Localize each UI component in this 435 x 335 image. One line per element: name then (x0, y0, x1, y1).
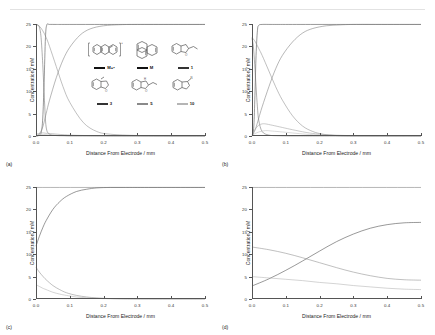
y-tick (33, 299, 36, 300)
y-tick-label: 0 (29, 134, 32, 139)
y-tick (249, 209, 252, 210)
x-tick (286, 133, 287, 136)
svg-text:H: H (144, 77, 146, 81)
x-tick (252, 296, 253, 299)
x-tick-label: 0.3 (134, 140, 140, 145)
x-tick-label: 0.0 (33, 303, 39, 308)
x-tick-label: 0.4 (168, 140, 174, 145)
svg-text:O: O (185, 53, 188, 57)
x-axis-title-d: Distance From Electrode / mm (302, 313, 371, 319)
svg-text:O: O (105, 89, 108, 93)
x-tick-label: 0.0 (249, 303, 255, 308)
anthracene-icon (127, 39, 164, 64)
y-tick-label: 5 (245, 274, 248, 279)
y-axis-title-c: Concentration / mM (29, 221, 35, 265)
x-tick (421, 296, 422, 299)
legend-item-4: H O 5 (127, 75, 164, 111)
curve-1 (36, 285, 205, 299)
x-tick-label: 0.0 (33, 140, 39, 145)
legend-swatch-0 (94, 67, 105, 69)
panel-c: 0.00.10.20.30.40.50510152025 Distance Fr… (2, 177, 215, 333)
x-tick-label: 0.5 (418, 303, 424, 308)
curve-M (252, 38, 421, 136)
legend-key-4: 5 (137, 100, 152, 108)
y-axis-title-b: Concentration / mM (245, 58, 251, 102)
y-tick-label: 0 (245, 134, 248, 139)
compound-3-icon: O (86, 75, 123, 100)
x-tick (171, 296, 172, 299)
x-tick (353, 296, 354, 299)
y-tick (249, 46, 252, 47)
y-tick (249, 24, 252, 25)
curve-3 (252, 37, 421, 136)
compound-1-icon: O (167, 39, 204, 64)
y-axis-c (36, 187, 37, 299)
x-tick (387, 133, 388, 136)
y-tick (249, 136, 252, 137)
x-tick-label: 0.3 (350, 140, 356, 145)
y-axis-d (252, 187, 253, 299)
y-tick-label: 25 (26, 22, 31, 27)
x-tick (104, 296, 105, 299)
x-tick (205, 296, 206, 299)
structure-legend: + M+• (86, 39, 204, 111)
y-tick (249, 187, 252, 188)
x-tick (387, 296, 388, 299)
x-tick (70, 296, 71, 299)
curves-d (252, 187, 421, 299)
legend-item-1: M (127, 39, 164, 75)
legend-label-0: M+• (107, 66, 114, 70)
y-tick-label: 25 (242, 22, 247, 27)
structure-legend-row-1: + M+• (86, 39, 204, 75)
y-tick-label: 5 (29, 274, 32, 279)
x-axis-title-a: Distance From Electrode / mm (86, 150, 155, 156)
y-tick (249, 299, 252, 300)
x-axis-a (36, 135, 205, 136)
legend-key-3: 3 (97, 100, 112, 108)
x-tick (137, 133, 138, 136)
compound-10-icon: N (167, 75, 204, 100)
x-tick-label: 0.1 (283, 140, 289, 145)
top-rule (10, 9, 425, 10)
x-tick-label: 0.4 (384, 303, 390, 308)
x-tick-label: 0.0 (249, 140, 255, 145)
plot-area-d: 0.00.10.20.30.40.50510152025 Distance Fr… (252, 187, 421, 299)
x-tick (421, 133, 422, 136)
x-tick-label: 0.5 (202, 140, 208, 145)
legend-item-5: N 10 (167, 75, 204, 111)
legend-key-5: 10 (177, 100, 195, 108)
legend-swatch-1 (137, 67, 148, 69)
x-tick-label: 0.3 (134, 303, 140, 308)
plot-area-c: 0.00.10.20.30.40.50510152025 Distance Fr… (36, 187, 205, 299)
legend-label-5: 10 (190, 102, 195, 106)
legend-item-2: O 1 (167, 39, 204, 75)
y-axis-title-a: Concentration / mM (29, 58, 35, 102)
x-tick-label: 0.2 (100, 140, 106, 145)
x-tick-label: 0.4 (384, 140, 390, 145)
y-tick (33, 209, 36, 210)
x-tick (320, 296, 321, 299)
x-tick (353, 133, 354, 136)
x-tick-label: 0.4 (168, 303, 174, 308)
x-tick-label: 0.5 (202, 303, 208, 308)
panel-tag-c: (c) (6, 324, 12, 330)
curves-b (252, 24, 421, 136)
compound-5-icon: H O (127, 75, 164, 100)
y-tick (249, 114, 252, 115)
svg-text:N: N (191, 76, 193, 80)
x-axis-b (252, 135, 421, 136)
y-tick-label: 0 (245, 297, 248, 302)
x-tick (205, 133, 206, 136)
y-axis-b (252, 24, 253, 136)
x-axis-title-c: Distance From Electrode / mm (86, 313, 155, 319)
x-tick-label: 0.1 (283, 303, 289, 308)
x-tick (286, 296, 287, 299)
curve-1 (252, 24, 421, 136)
x-tick-label: 0.3 (350, 303, 356, 308)
curve-1 (252, 277, 421, 290)
anthracene-radical-cation-icon: + (86, 39, 123, 64)
y-tick (33, 277, 36, 278)
x-tick (320, 133, 321, 136)
legend-item-0: + M+• (86, 39, 123, 75)
y-tick-label: 20 (26, 44, 31, 49)
